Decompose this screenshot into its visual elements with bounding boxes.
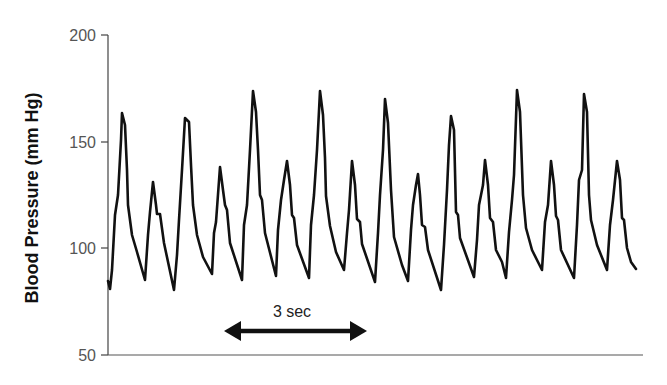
y-tick-200: 200 <box>69 27 96 44</box>
arrow-right-icon <box>350 321 367 341</box>
y-axis: 200 150 100 50 <box>69 27 108 364</box>
y-tick-100: 100 <box>69 240 96 257</box>
y-axis-title: Blood Pressure (mm Hg) <box>22 92 42 303</box>
arrow-left-icon <box>224 321 241 341</box>
blood-pressure-waveform <box>108 90 636 290</box>
blood-pressure-chart: Blood Pressure (mm Hg) 200 150 100 50 3 … <box>0 0 667 385</box>
time-scale-bar: 3 sec <box>224 303 367 341</box>
scale-bar-label: 3 sec <box>273 303 311 320</box>
y-tick-150: 150 <box>69 134 96 151</box>
y-tick-50: 50 <box>78 347 96 364</box>
